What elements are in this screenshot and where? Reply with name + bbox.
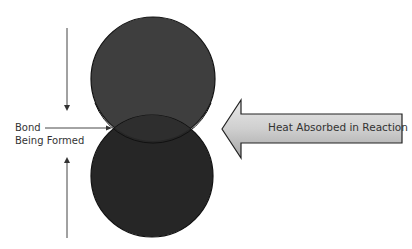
bond-label-line2: Being Formed xyxy=(15,134,84,147)
bond-pointer-arrow xyxy=(45,126,112,131)
down-arrow-icon xyxy=(64,28,70,111)
up-arrow-icon xyxy=(64,157,70,238)
bond-label-line1: Bond xyxy=(15,121,41,134)
heat-arrow-label: Heat Absorbed in Reaction xyxy=(268,121,398,133)
